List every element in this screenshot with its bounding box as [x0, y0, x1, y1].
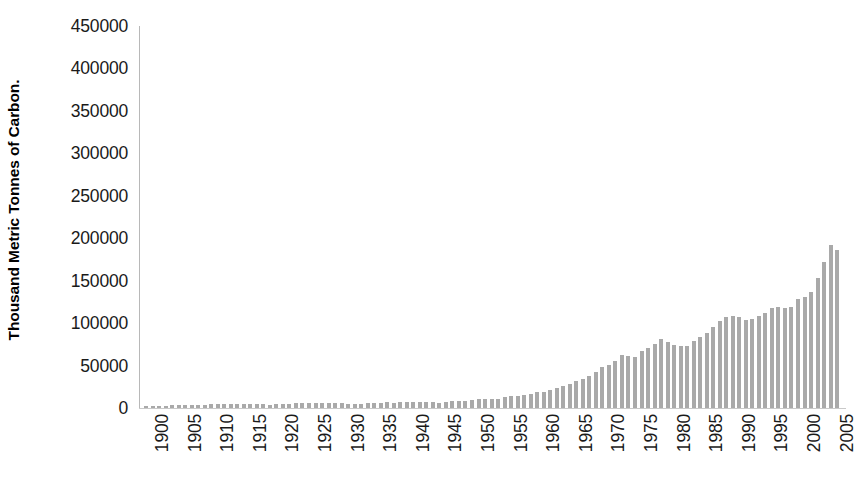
bar: [620, 355, 624, 408]
x-tick-label: 1990: [739, 414, 760, 452]
bar: [268, 405, 272, 408]
bar: [294, 403, 298, 408]
bar: [600, 367, 604, 408]
bar: [763, 313, 767, 408]
bar: [333, 403, 337, 408]
bar: [594, 372, 598, 408]
bar: [796, 299, 800, 408]
bar: [444, 402, 448, 408]
bar: [164, 406, 168, 408]
x-tick-label: 1960: [543, 414, 564, 452]
bar: [529, 394, 533, 408]
bar: [672, 345, 676, 408]
x-tick-label: 1940: [413, 414, 434, 452]
x-tick-label: 1905: [185, 414, 206, 452]
emissions-bar-chart: Thousand Metric Tonnes of Carbon. 450000…: [0, 0, 862, 495]
bar: [503, 397, 507, 408]
bar: [750, 319, 754, 408]
bar: [490, 399, 494, 408]
bar: [653, 344, 657, 408]
x-tick-label: 1995: [771, 414, 792, 452]
bar: [646, 348, 650, 408]
x-tick-label: 1980: [674, 414, 695, 452]
x-tick-label: 1910: [217, 414, 238, 452]
bar: [307, 403, 311, 408]
x-tick-label: 1935: [380, 414, 401, 452]
bar: [522, 395, 526, 408]
bar: [424, 402, 428, 408]
bar: [405, 402, 409, 408]
bar: [418, 402, 422, 408]
y-axis-title: Thousand Metric Tonnes of Carbon.: [0, 0, 28, 420]
bar: [568, 384, 572, 408]
x-axis-tick-labels: 1900190519101915192019251930193519401945…: [140, 410, 846, 495]
y-tick-label: 400000: [71, 58, 128, 79]
bar: [274, 404, 278, 408]
bar: [470, 400, 474, 408]
plot-area: [140, 26, 846, 408]
bar: [666, 342, 670, 408]
bar: [157, 406, 161, 408]
bar: [711, 327, 715, 408]
y-axis-tick-labels: 4500004000003500003000002500002000001500…: [30, 0, 134, 440]
bar: [640, 351, 644, 408]
bar: [170, 405, 174, 408]
x-tick-label: 1950: [478, 414, 499, 452]
bar: [789, 307, 793, 408]
bar: [196, 405, 200, 408]
bar: [281, 404, 285, 408]
bar: [177, 405, 181, 408]
y-tick-label: 200000: [71, 228, 128, 249]
bar: [757, 316, 761, 408]
bar: [633, 357, 637, 408]
bar: [731, 316, 735, 408]
bar: [809, 292, 813, 408]
bar: [320, 403, 324, 408]
bar: [392, 403, 396, 408]
y-tick-label: 250000: [71, 185, 128, 206]
bar: [770, 308, 774, 408]
bar: [705, 333, 709, 408]
bar: [209, 404, 213, 408]
y-tick-label: 100000: [71, 313, 128, 334]
bar: [542, 392, 546, 408]
bar: [679, 346, 683, 408]
x-tick-label: 1920: [282, 414, 303, 452]
x-tick-label: 1955: [511, 414, 532, 452]
bar: [744, 320, 748, 408]
x-tick-label: 1925: [315, 414, 336, 452]
bar: [822, 262, 826, 408]
bar: [516, 396, 520, 408]
bar: [496, 399, 500, 408]
bar: [685, 346, 689, 408]
bar: [581, 379, 585, 408]
bar: [203, 405, 207, 408]
bar: [372, 403, 376, 408]
bar: [535, 392, 539, 408]
bar: [431, 402, 435, 408]
bar: [463, 401, 467, 408]
y-tick-label: 450000: [71, 16, 128, 37]
bar: [190, 405, 194, 408]
bar: [561, 386, 565, 408]
bar: [359, 404, 363, 408]
bar: [411, 402, 415, 408]
y-tick-label: 350000: [71, 100, 128, 121]
x-tick-label: 1900: [152, 414, 173, 452]
x-tick-label: 1965: [576, 414, 597, 452]
bar: [737, 317, 741, 408]
x-tick-label: 1975: [641, 414, 662, 452]
bar: [261, 404, 265, 408]
bar: [327, 403, 331, 408]
bar: [222, 404, 226, 408]
bar: [626, 356, 630, 408]
x-axis-line: [139, 408, 846, 409]
bar: [385, 402, 389, 408]
bar: [314, 403, 318, 408]
bar: [724, 317, 728, 408]
bar: [548, 390, 552, 408]
y-tick-label: 150000: [71, 270, 128, 291]
bar: [555, 388, 559, 408]
bar: [509, 396, 513, 408]
bar: [783, 308, 787, 408]
